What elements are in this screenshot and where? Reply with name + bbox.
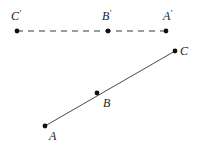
label-b: B (103, 96, 111, 110)
point-a (43, 124, 48, 129)
label-b-prime-mark: ′ (109, 8, 112, 18)
label-a-prime: A′ (162, 8, 173, 23)
point-b-prime (106, 29, 111, 34)
point-c (173, 49, 178, 54)
point-a-prime (164, 29, 169, 34)
label-a-prime-mark: ′ (170, 8, 173, 18)
label-c-prime: C′ (11, 8, 22, 23)
label-c-prime-mark: ′ (19, 8, 22, 18)
label-b-prime: B′ (102, 8, 112, 23)
label-c: C (180, 44, 189, 58)
solid-line-abc (45, 51, 175, 126)
diagram-canvas: C′ B′ A′ C B A (0, 0, 199, 146)
geometry-diagram: C′ B′ A′ C B A (0, 0, 199, 146)
point-c-prime (15, 29, 20, 34)
label-a: A (48, 129, 57, 143)
point-b (95, 91, 100, 96)
